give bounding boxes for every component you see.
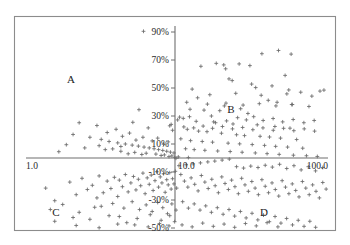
quadrant-label-a: A [67,73,75,85]
quadrant-label-d: D [260,206,268,218]
y-axis-tick-label: 90% [152,27,170,37]
scatter-plot-svg: 90%70%50%30%10%-10%-30%-50% 1.0 10.0 100… [0,0,350,245]
y-axis-tick-label: 30% [152,111,170,121]
x-axis-end-label: 100.0 [307,161,329,171]
quadrant-label-c: C [52,206,59,218]
y-axis-tick-label: 50% [152,83,170,93]
y-axis-tick-label: 70% [152,55,170,65]
scatter-chart-figure: 90%70%50%30%10%-10%-30%-50% 1.0 10.0 100… [0,0,350,245]
x-axis-origin-label: 10.0 [178,161,195,171]
y-axis-tick-label: -50% [148,223,169,233]
quadrant-label-b: B [227,103,234,115]
y-axis-tick-label: -10% [148,167,169,177]
y-axis-tick-label: -30% [148,195,169,205]
x-axis-start-label: 1.0 [26,161,38,171]
y-axis-tick-label: 10% [152,139,170,149]
